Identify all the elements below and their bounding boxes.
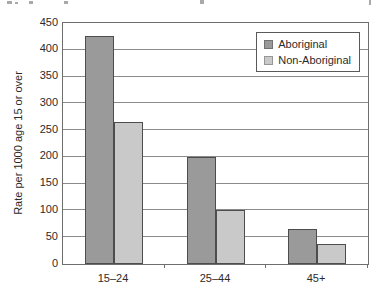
y-tick-label-0: 0 [18,257,58,270]
x-tick-label-25-44: 25–44 [175,272,255,284]
bar-aboriginal-15-24 [85,36,114,264]
non-aboriginal-swatch-icon [264,56,273,65]
legend-label-non-aboriginal: Non-Aboriginal [278,54,351,66]
x-axis-tick [367,264,368,268]
y-tick-label-200: 200 [18,149,58,162]
x-axis-tick [164,264,165,268]
y-tick-label-400: 400 [18,42,58,55]
bar-non-aboriginal-15-24 [114,122,143,264]
bar-aboriginal-25-44 [187,157,216,264]
legend-label-aboriginal: Aboriginal [278,38,327,50]
bar-chart: Rate per 1000 age 15 or over 05010015020… [0,0,377,296]
y-tick-label-350: 350 [18,69,58,82]
x-tick-label-15-24: 15–24 [73,272,153,284]
bar-non-aboriginal-25-44 [216,210,245,264]
aboriginal-swatch-icon [264,40,273,49]
y-tick-label-150: 150 [18,176,58,189]
y-axis-title: Rate per 1000 age 15 or over [12,63,26,223]
legend-entry-aboriginal: Aboriginal [264,38,351,50]
y-tick-label-50: 50 [18,230,58,243]
legend: Aboriginal Non-Aboriginal [256,32,360,72]
y-tick-label-300: 300 [18,96,58,109]
bar-aboriginal-45+ [288,229,317,264]
y-tick-label-450: 450 [18,16,58,29]
chart-page: Rate per 1000 age 15 or over 05010015020… [0,0,377,296]
y-tick-label-250: 250 [18,123,58,136]
x-axis-tick [265,264,266,268]
plot-area: Aboriginal Non-Aboriginal [62,22,369,265]
y-tick-label-100: 100 [18,203,58,216]
legend-entry-non-aboriginal: Non-Aboriginal [264,54,351,66]
bar-non-aboriginal-45+ [317,244,346,264]
x-tick-label-45+: 45+ [276,272,356,284]
